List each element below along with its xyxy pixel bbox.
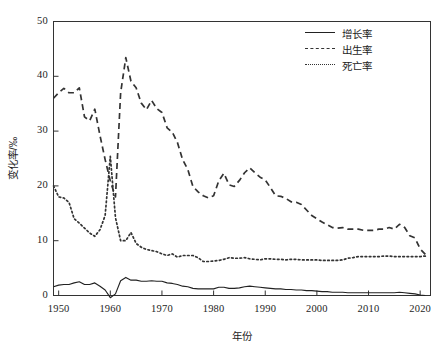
y-tick-label: 10 <box>18 234 48 245</box>
legend-item[interactable]: 增长率 <box>305 26 372 40</box>
chart-figure: 01020304050 1950196019701980199020002010… <box>0 0 448 349</box>
legend-item[interactable]: 死亡率 <box>305 58 372 72</box>
line-chart-canvas <box>0 0 448 349</box>
x-axis-title: 年份 <box>202 328 282 343</box>
x-tick-label: 2010 <box>344 303 394 314</box>
series-line-0 <box>54 277 426 297</box>
x-tick-label: 1970 <box>137 303 187 314</box>
x-tick-label: 1960 <box>85 303 135 314</box>
chart-legend: 增长率出生率死亡率 <box>305 26 372 74</box>
y-tick-label: 0 <box>18 289 48 300</box>
series-line-2 <box>54 156 426 261</box>
x-tick-label: 1950 <box>34 303 84 314</box>
y-tick-label: 40 <box>18 69 48 80</box>
x-tick-label: 2000 <box>292 303 342 314</box>
y-axis-title: 变化率/‰ <box>5 128 20 188</box>
legend-item-label: 增长率 <box>342 26 372 41</box>
series-line-1 <box>54 58 426 255</box>
y-tick-label: 50 <box>18 15 48 26</box>
legend-line-swatch-dashed <box>305 44 335 54</box>
data-series-layer <box>54 58 426 298</box>
legend-item-label: 死亡率 <box>342 58 372 73</box>
y-tick-label: 20 <box>18 179 48 190</box>
y-axis-ticks <box>54 22 59 296</box>
legend-line-swatch-dotted <box>305 60 335 70</box>
y-tick-label: 30 <box>18 124 48 135</box>
legend-item[interactable]: 出生率 <box>305 42 372 56</box>
x-tick-label: 1980 <box>189 303 239 314</box>
x-tick-label: 2020 <box>395 303 445 314</box>
legend-line-swatch-solid <box>305 28 335 38</box>
legend-item-label: 出生率 <box>342 42 372 57</box>
x-tick-label: 1990 <box>240 303 290 314</box>
